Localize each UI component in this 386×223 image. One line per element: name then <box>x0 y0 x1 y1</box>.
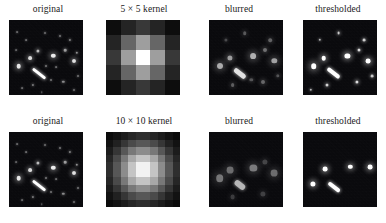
star-point <box>366 59 371 64</box>
kernel-cell <box>165 155 172 163</box>
star-point <box>25 151 27 153</box>
kernel-cell <box>150 170 157 178</box>
starfield-blurred-panel <box>209 20 283 95</box>
kernel-cell <box>106 170 113 178</box>
kernel-cell <box>106 80 121 95</box>
kernel-cell <box>136 162 143 170</box>
kernel-cell <box>173 192 180 200</box>
kernel-cell <box>173 185 180 193</box>
star-point <box>250 53 256 59</box>
star-point <box>73 89 75 91</box>
kernel-cell <box>106 192 113 200</box>
star-point <box>41 91 43 93</box>
kernel-cell <box>143 132 150 140</box>
starfield-blurred <box>209 20 283 95</box>
kernel-cell <box>150 185 157 193</box>
kernel-cell <box>143 162 150 170</box>
kernel-cell <box>143 192 150 200</box>
kernel-cell <box>128 132 135 140</box>
kernel-cell <box>143 185 150 193</box>
kernel-cell <box>173 162 180 170</box>
star-point <box>73 201 75 203</box>
star-point <box>44 32 46 34</box>
star-point <box>325 84 328 87</box>
star-point <box>41 203 43 205</box>
star-point <box>25 39 27 41</box>
star-point <box>64 49 67 52</box>
kernel-cell <box>173 140 180 148</box>
star-point <box>337 32 340 35</box>
kernel-cell <box>136 140 143 148</box>
starfield-thresholded-panel <box>303 132 377 207</box>
kernel-cell <box>150 200 157 208</box>
kernel-cell <box>121 170 128 178</box>
kernel-cell <box>121 155 128 163</box>
kernel-cell <box>106 177 113 185</box>
star-point <box>77 75 79 77</box>
starfield-original <box>9 20 83 95</box>
kernel-cell <box>165 185 172 193</box>
kernel-cell <box>158 140 165 148</box>
star-point <box>368 165 373 170</box>
star-point <box>72 171 76 175</box>
kernel-cell <box>121 132 128 140</box>
panel-label: thresholded <box>290 3 386 15</box>
star-point <box>17 176 22 181</box>
star-point <box>15 49 17 51</box>
star-point <box>268 38 272 42</box>
kernel-cell <box>113 185 120 193</box>
kernel-cell <box>165 162 172 170</box>
kernel-cell <box>128 140 135 148</box>
star-point <box>16 143 18 145</box>
kernel-cell <box>165 170 172 178</box>
starfield-original-panel <box>9 20 83 95</box>
kernel-cell <box>128 162 135 170</box>
star-point <box>371 75 374 78</box>
kernel-cell <box>128 185 135 193</box>
star-point <box>77 187 79 189</box>
kernel-cell <box>150 177 157 185</box>
kernel-cell <box>113 140 120 148</box>
kernel-cell <box>143 170 150 178</box>
kernel-cell <box>121 50 136 65</box>
kernel-cell <box>121 185 128 193</box>
starfield-thresholded <box>303 20 377 95</box>
star-point <box>243 31 247 35</box>
kernel-cell <box>158 192 165 200</box>
star-point <box>45 65 47 67</box>
figure-row: original 5 × 5 kernel blurred thresholde <box>0 0 386 111</box>
kernel-cell <box>136 177 143 185</box>
kernel-cell <box>128 147 135 155</box>
star-point <box>15 161 17 163</box>
kernel-cell <box>106 20 121 35</box>
kernel-cell <box>113 162 120 170</box>
kernel-cell <box>113 132 120 140</box>
kernel-cell <box>158 177 165 185</box>
kernel-cell <box>165 20 180 35</box>
kernel-cell <box>158 162 165 170</box>
panel-label: original <box>0 3 96 15</box>
kernel-cell <box>136 80 151 95</box>
kernel-cell <box>136 50 151 65</box>
starfield-thresholded <box>303 132 377 207</box>
kernel-cell <box>113 177 120 185</box>
kernel-cell <box>143 200 150 208</box>
kernel-cell <box>106 140 113 148</box>
kernel-cell <box>106 200 113 208</box>
kernel-cell <box>106 35 121 50</box>
kernel-cell <box>165 132 172 140</box>
kernel-cell <box>121 65 136 80</box>
star-point <box>64 161 67 164</box>
panel-label: original <box>0 115 96 127</box>
kernel-cell <box>121 192 128 200</box>
panel-cell-original: original <box>0 0 96 111</box>
noise-texture <box>303 132 377 207</box>
kernel-cell <box>150 35 165 50</box>
kernel-cell <box>128 192 135 200</box>
kernel-cell <box>143 147 150 155</box>
kernel-cell <box>165 147 172 155</box>
panel-label: thresholded <box>290 115 386 127</box>
star-point <box>59 35 61 37</box>
kernel-cell <box>150 140 157 148</box>
star-point <box>45 177 47 179</box>
